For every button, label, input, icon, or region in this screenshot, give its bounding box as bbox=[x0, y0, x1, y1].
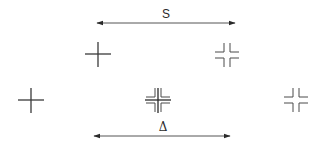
split-cross-icon bbox=[215, 43, 239, 67]
split-cross-icon bbox=[284, 88, 308, 112]
shift-s-label: S bbox=[162, 8, 170, 20]
solid-cross-icon bbox=[85, 42, 111, 67]
shift-delta-label: Δ bbox=[159, 121, 168, 133]
overlapped-cross-icon bbox=[145, 88, 171, 113]
solid-cross-icon bbox=[18, 88, 44, 113]
